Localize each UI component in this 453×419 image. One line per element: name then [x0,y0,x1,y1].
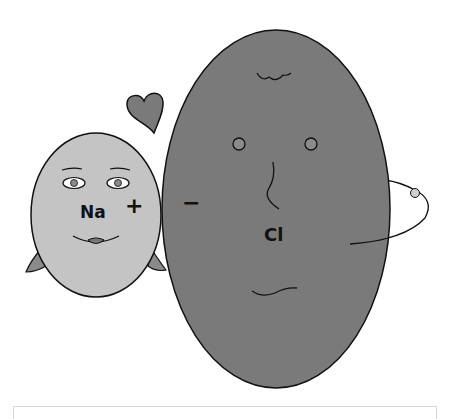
sodium-ion: Na + [31,133,161,297]
sodium-symbol: Na [80,202,106,222]
chloride-charge: − [182,190,200,215]
chloride-symbol: Cl [264,224,283,245]
left-eye [63,178,85,189]
heart-icon [127,93,163,133]
sodium-charge: + [125,193,143,218]
caption-box [13,406,437,419]
right-eye [305,138,317,150]
right-eye [107,178,129,189]
chloride-ion: Cl − [162,30,390,388]
electron-dot [411,189,420,198]
left-eye [233,138,245,150]
